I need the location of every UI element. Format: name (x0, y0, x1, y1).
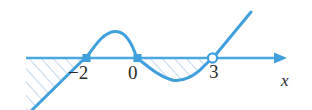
x-axis-label: x (281, 72, 289, 89)
tick-label-three: 3 (209, 62, 219, 81)
line-right-branch (213, 12, 251, 58)
root-marker-neg-two (83, 54, 91, 62)
graph-canvas (0, 0, 312, 110)
tick-label-neg-two: −2 (68, 63, 88, 82)
math-graph-figure: −2 0 3 x (0, 0, 312, 110)
tick-label-zero: 0 (128, 63, 138, 82)
root-marker-zero (134, 54, 142, 62)
